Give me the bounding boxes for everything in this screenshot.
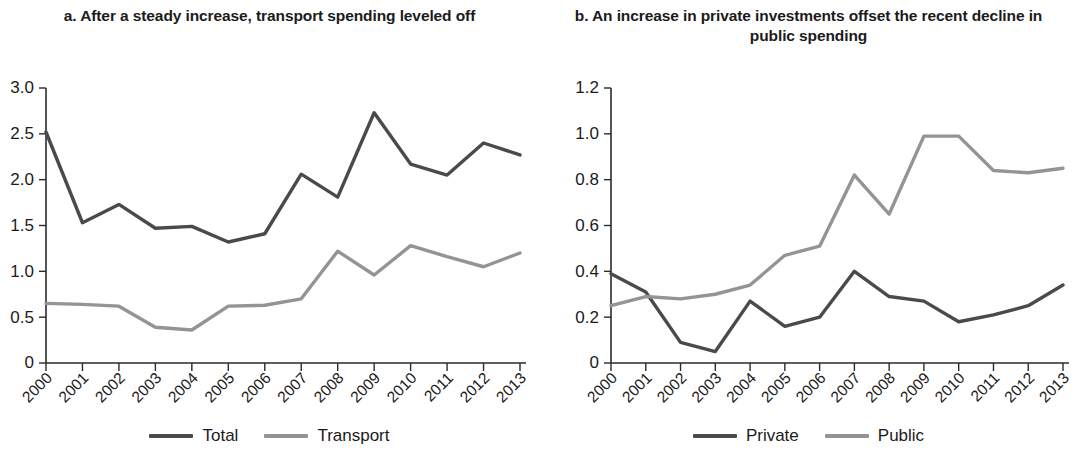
x-tick-label: 2000 <box>19 369 56 406</box>
x-tick-label: 2012 <box>1001 369 1037 405</box>
y-tick-label: 0.6 <box>575 216 599 235</box>
legend-swatch-transport <box>264 434 308 438</box>
x-tick-label: 2008 <box>310 369 346 405</box>
y-tick-label: 1.0 <box>10 262 34 281</box>
series-line-public <box>611 136 1063 306</box>
y-tick-label: 0.4 <box>575 262 599 281</box>
series-line-transport <box>46 246 520 330</box>
series-line-private <box>611 271 1063 351</box>
legend-label-private: Private <box>746 426 799 446</box>
x-tick-label: 2010 <box>383 369 420 406</box>
legend-label-public: Public <box>878 426 924 446</box>
legend-item-total: Total <box>149 426 238 446</box>
x-tick-label: 2007 <box>827 369 863 405</box>
x-tick-label: 2013 <box>493 369 529 405</box>
x-tick-label: 2000 <box>584 369 621 406</box>
y-tick-label: 2.0 <box>10 170 34 189</box>
x-tick-label: 2013 <box>1036 369 1072 405</box>
x-tick-label: 2011 <box>967 369 1003 405</box>
x-tick-label: 2011 <box>421 369 457 405</box>
legend-item-public: Public <box>825 426 924 446</box>
x-tick-label: 2002 <box>92 369 128 405</box>
legend-swatch-public <box>825 434 869 438</box>
x-tick-label: 2003 <box>688 369 724 405</box>
y-tick-label: 1.5 <box>10 216 34 235</box>
legend-item-private: Private <box>693 426 799 446</box>
panel-a-legend: Total Transport <box>0 426 539 446</box>
y-tick-label: 0 <box>590 353 599 372</box>
x-tick-label: 2006 <box>237 369 273 405</box>
panel-b-plot-area: 00.20.40.60.81.01.2200020012002200320042… <box>539 0 1078 454</box>
x-tick-label: 2005 <box>758 369 794 405</box>
series-line-total <box>46 113 520 242</box>
y-tick-label: 3.0 <box>10 78 34 97</box>
chart-panel-b: b. An increase in private investments of… <box>539 0 1078 454</box>
legend-swatch-private <box>693 434 737 438</box>
x-tick-label: 2001 <box>55 369 91 405</box>
legend-swatch-total <box>149 434 193 438</box>
legend-label-transport: Transport <box>317 426 389 446</box>
figure-root: a. After a steady increase, transport sp… <box>0 0 1078 454</box>
x-tick-label: 2004 <box>723 369 760 406</box>
y-tick-label: 0.5 <box>10 308 34 327</box>
x-tick-label: 2005 <box>201 369 237 405</box>
x-tick-label: 2001 <box>618 369 654 405</box>
x-tick-label: 2010 <box>931 369 968 406</box>
y-tick-label: 2.5 <box>10 124 34 143</box>
legend-item-transport: Transport <box>264 426 389 446</box>
y-tick-label: 1.0 <box>575 124 599 143</box>
x-tick-label: 2007 <box>274 369 310 405</box>
panel-a-plot-area: 00.51.01.52.02.53.0200020012002200320042… <box>0 0 539 454</box>
x-tick-label: 2006 <box>792 369 828 405</box>
panel-a-svg: 00.51.01.52.02.53.0200020012002200320042… <box>0 0 539 454</box>
x-tick-label: 2003 <box>128 369 164 405</box>
y-tick-label: 0.2 <box>575 308 599 327</box>
x-tick-label: 2008 <box>862 369 898 405</box>
legend-label-total: Total <box>202 426 238 446</box>
panel-b-legend: Private Public <box>539 426 1078 446</box>
panel-b-svg: 00.20.40.60.81.01.2200020012002200320042… <box>539 0 1078 454</box>
y-tick-label: 0 <box>25 353 34 372</box>
x-tick-label: 2009 <box>347 369 383 405</box>
y-tick-label: 1.2 <box>575 78 599 97</box>
y-tick-label: 0.8 <box>575 170 599 189</box>
x-tick-label: 2009 <box>897 369 933 405</box>
x-tick-label: 2004 <box>165 369 202 406</box>
x-tick-label: 2012 <box>456 369 492 405</box>
x-tick-label: 2002 <box>653 369 689 405</box>
chart-panel-a: a. After a steady increase, transport sp… <box>0 0 539 454</box>
